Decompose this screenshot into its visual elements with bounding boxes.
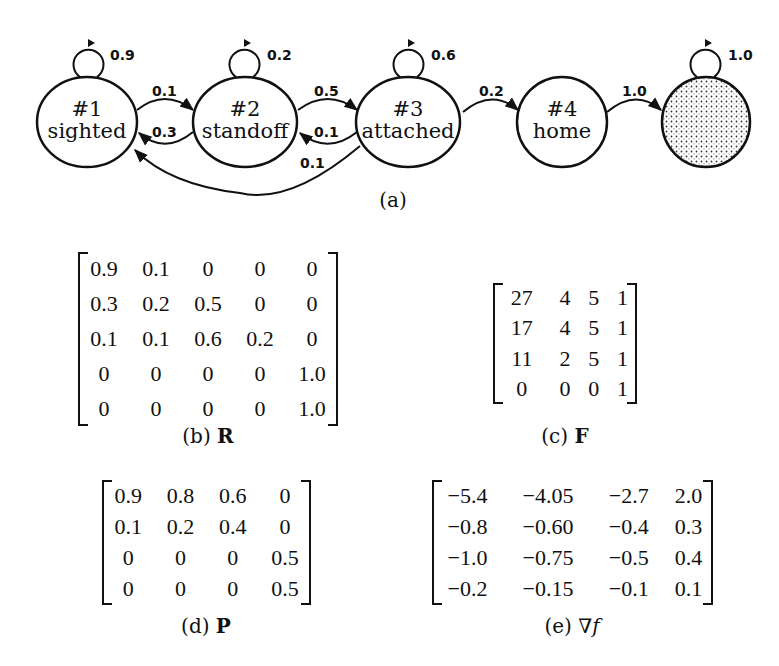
cell: 0 [259,511,311,542]
node-number: #4 [547,97,578,121]
cell: −0.5 [593,543,664,574]
matrix-row: 0.1 0.2 0.4 0 [102,511,311,542]
node-absorbing-dotted [662,77,750,167]
edge-label-2-3: 0.5 [314,83,339,99]
cell: −0.1 [593,574,664,605]
self-loop-label-1: 0.9 [110,47,135,63]
cell: 0 [154,543,206,574]
node-number: #3 [393,97,424,121]
cell: 0 [493,374,551,404]
caption-prefix: (d) [181,614,209,638]
cell: −0.2 [432,574,503,605]
node-standoff: #2 standoff [193,77,297,167]
matrix-row: 27 4 5 1 [493,283,637,313]
matrix-gradient: −5.4 −4.05 −2.7 2.0 −0.8 −0.60 −0.4 0.3 … [432,480,713,605]
cell: 0 [182,252,234,287]
matrix-row: 0.1 0.1 0.6 0.2 0 [78,322,338,357]
cell: 4 [551,313,580,343]
cell: 0.6 [207,480,259,511]
edge-2-to-3 [298,99,357,110]
self-loop-5 [691,39,721,77]
cell: 2.0 [664,480,713,511]
edge-4-to-5 [607,99,661,112]
node-number: #1 [72,97,103,121]
cell: −0.75 [503,543,593,574]
cell: 0 [207,543,259,574]
cell: 2 [551,344,580,374]
node-name: attached [361,119,454,143]
self-loop-1 [74,39,104,77]
matrix-row: 0 0 0 0.5 [102,574,311,605]
cell: 0 [286,252,338,287]
self-loop-label-3: 0.6 [431,47,456,63]
matrix-row: −0.8 −0.60 −0.4 0.3 [432,511,713,542]
cell: 0.1 [664,574,713,605]
cell: 1.0 [286,391,338,426]
caption-c: (c) F [515,424,615,448]
cell: 1.0 [286,356,338,391]
cell: 0 [130,356,182,391]
self-loop-label-5: 1.0 [728,47,753,63]
cell: 0 [130,391,182,426]
cell: −4.05 [503,480,593,511]
matrix-row: 0.9 0.8 0.6 0 [102,480,311,511]
cell: 0.1 [102,511,154,542]
matrix-p-table: 0.9 0.8 0.6 0 0.1 0.2 0.4 0 0 0 0 0.5 0 … [102,480,311,605]
cell: 0 [286,287,338,322]
cell: 1 [608,374,637,404]
matrix-r: 0.9 0.1 0 0 0 0.3 0.2 0.5 0 0 0.1 0.1 0.… [78,252,338,426]
cell: −0.15 [503,574,593,605]
caption-symbol: R [217,424,234,448]
cell: 0 [207,574,259,605]
cell: −1.0 [432,543,503,574]
cell: 0 [259,480,311,511]
matrix-row: 0 0 0 0 1.0 [78,356,338,391]
matrix-row: −0.2 −0.15 −0.1 0.1 [432,574,713,605]
caption-prefix: (b) [182,424,210,448]
node-home: #4 home [517,77,607,167]
cell: 5 [579,283,608,313]
edge-label-1-2: 0.1 [152,83,177,99]
cell: −0.4 [593,511,664,542]
cell: 0.5 [182,287,234,322]
edge-label-3-4: 0.2 [479,83,504,99]
cell: 0 [234,391,286,426]
caption-b: (b) R [148,424,268,448]
cell: 0 [78,356,130,391]
cell: −5.4 [432,480,503,511]
node-name: home [533,119,592,143]
node-attached: #3 attached [356,77,460,167]
cell: −0.60 [503,511,593,542]
cell: 11 [493,344,551,374]
edge-1-to-2 [137,99,193,110]
self-loop-3 [394,39,424,77]
self-loop-2 [230,39,260,77]
cell: 0 [102,543,154,574]
matrix-r-table: 0.9 0.1 0 0 0 0.3 0.2 0.5 0 0 0.1 0.1 0.… [78,252,338,426]
cell: 0 [154,574,206,605]
cell: 0.1 [130,252,182,287]
matrix-f-table: 27 4 5 1 17 4 5 1 11 2 5 1 0 0 0 1 [493,283,637,404]
cell: 0 [182,391,234,426]
caption-a: (a) [375,188,411,212]
cell: 0.1 [130,322,182,357]
cell: 0 [579,374,608,404]
matrix-row: −1.0 −0.75 −0.5 0.4 [432,543,713,574]
cell: 0.4 [207,511,259,542]
matrix-p: 0.9 0.8 0.6 0 0.1 0.2 0.4 0 0 0 0 0.5 0 … [102,480,311,605]
cell: 4 [551,283,580,313]
cell: 0 [234,287,286,322]
cell: 0 [551,374,580,404]
node-name: sighted [48,119,127,143]
matrix-gradient-table: −5.4 −4.05 −2.7 2.0 −0.8 −0.60 −0.4 0.3 … [432,480,713,605]
cell: 0.5 [259,574,311,605]
cell: 0.1 [78,322,130,357]
caption-prefix: (c) [541,424,568,448]
caption-e: (e) ∇f [522,614,622,638]
matrix-row: −5.4 −4.05 −2.7 2.0 [432,480,713,511]
edge-label-2-1: 0.3 [152,124,177,140]
cell: −0.8 [432,511,503,542]
matrix-f: 27 4 5 1 17 4 5 1 11 2 5 1 0 0 0 1 [493,283,637,404]
self-loop-label-2: 0.2 [267,47,292,63]
matrix-row: 0 0 0 0 1.0 [78,391,338,426]
